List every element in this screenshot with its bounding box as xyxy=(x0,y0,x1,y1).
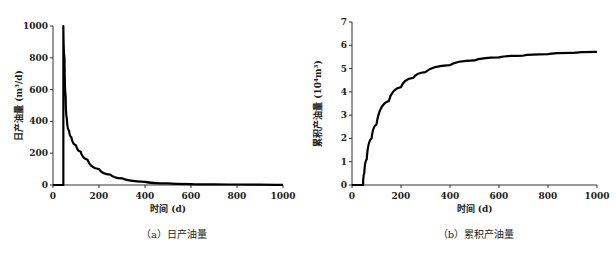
x-tick-label: 1000 xyxy=(584,191,609,201)
data-line xyxy=(352,52,597,185)
x-tick-label: 400 xyxy=(441,191,460,201)
x-tick-label: 1000 xyxy=(270,191,295,201)
y-tick-label: 2 xyxy=(341,133,347,143)
chart-b-panel: 0200400600800100001234567时间 (d)累积产油量 (10… xyxy=(300,0,616,255)
y-tick-label: 200 xyxy=(29,148,48,158)
chart-b-caption: （b）累积产油量 xyxy=(376,226,576,241)
x-tick-label: 800 xyxy=(228,191,247,201)
y-tick-label: 0 xyxy=(42,180,48,190)
chart-a: 0200400600800100002004006008001000时间 (d)… xyxy=(0,0,300,255)
y-tick-label: 800 xyxy=(29,53,48,63)
x-axis-label: 时间 (d) xyxy=(457,203,493,214)
x-tick-label: 600 xyxy=(182,191,201,201)
y-tick-label: 1000 xyxy=(23,21,48,31)
data-line xyxy=(53,26,283,185)
x-tick-label: 600 xyxy=(490,191,509,201)
y-axis-label: 日产油量 (m³/d) xyxy=(13,70,24,141)
x-tick-label: 200 xyxy=(90,191,109,201)
x-axis-label: 时间 (d) xyxy=(150,203,186,214)
y-tick-label: 400 xyxy=(29,116,48,126)
y-tick-label: 1 xyxy=(341,157,347,167)
x-tick-label: 400 xyxy=(136,191,155,201)
y-tick-label: 0 xyxy=(341,180,347,190)
y-tick-label: 4 xyxy=(341,87,347,97)
y-tick-label: 6 xyxy=(341,40,347,50)
chart-a-panel: 0200400600800100002004006008001000时间 (d)… xyxy=(0,0,300,255)
y-tick-label: 600 xyxy=(29,85,48,95)
x-tick-label: 0 xyxy=(349,191,355,201)
x-tick-label: 800 xyxy=(539,191,558,201)
y-tick-label: 7 xyxy=(341,17,347,27)
y-tick-label: 3 xyxy=(341,110,347,120)
chart-a-caption: （a）日产油量 xyxy=(74,226,274,241)
y-axis-label: 累积产油量 (10⁴m³) xyxy=(312,60,323,147)
y-tick-label: 5 xyxy=(341,64,347,74)
x-tick-label: 0 xyxy=(50,191,56,201)
chart-b: 0200400600800100001234567时间 (d)累积产油量 (10… xyxy=(300,0,616,255)
x-tick-label: 200 xyxy=(392,191,411,201)
